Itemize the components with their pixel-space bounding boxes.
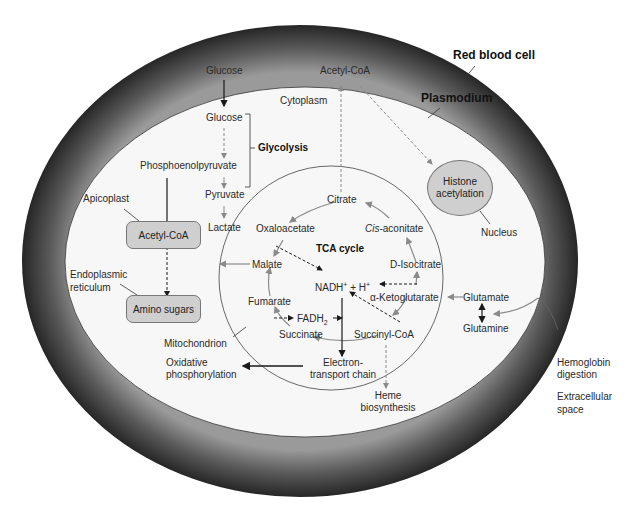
glutamate: Glutamate — [463, 292, 509, 304]
alpha-ketoglutarate: α-Ketoglutarate — [370, 292, 439, 304]
er-label-line2: reticulum — [70, 282, 111, 294]
nadh-h: NADH+ + H+ — [315, 279, 370, 294]
mitochondrion-label: Mitochondrion — [164, 338, 227, 350]
oxaloacetate: Oxaloacetate — [256, 223, 315, 235]
histone-line2: acetylation — [436, 188, 484, 200]
d-isocitrate: D-Isocitrate — [390, 259, 441, 271]
fumarate: Fumarate — [248, 296, 291, 308]
heme-line2: biosynthesis — [356, 402, 420, 414]
nucleus-histone-acetylation: Histone acetylation — [427, 160, 493, 216]
red-blood-cell-label: Red blood cell — [453, 49, 535, 61]
oxphos-line1: Oxidative — [166, 357, 208, 369]
cis-aconitate: Cis-aconitate — [365, 223, 423, 235]
nadh-text: NADH — [315, 282, 343, 293]
etc-line2: transport chain — [305, 369, 381, 381]
succinate: Succinate — [279, 329, 323, 341]
glucose: Glucose — [206, 112, 243, 124]
fadh-text: FADH — [297, 313, 324, 324]
cis-prefix: Cis — [365, 223, 379, 234]
fadh-sub: 2 — [324, 319, 328, 326]
er-label-line1: Endoplasmic — [70, 269, 127, 281]
succinyl-coa: Succinyl-CoA — [354, 329, 414, 341]
h-text: + H — [347, 282, 366, 293]
fadh2: FADH2 — [297, 313, 328, 329]
tca-cycle-label: TCA cycle — [316, 243, 364, 255]
plasmodium-body — [65, 87, 545, 437]
histone-line1: Histone — [443, 176, 477, 188]
er-amino-sugars-box: Amino sugars — [126, 295, 201, 323]
malate: Malate — [252, 259, 282, 271]
extracellular-label-line2: space — [557, 404, 584, 416]
h-sup: + — [366, 281, 370, 288]
extracellular-label-line1: Extracellular — [557, 391, 612, 403]
apicoplast-label: Apicoplast — [83, 193, 129, 205]
heme-line1: Heme — [356, 390, 420, 402]
apicoplast-acetyl-coa-box: Acetyl-CoA — [126, 221, 201, 249]
glucose-external: Glucose — [206, 65, 243, 77]
glycolysis-label: Glycolysis — [258, 142, 308, 154]
pyruvate: Pyruvate — [205, 189, 244, 201]
acetyl-coa-cytoplasm: Acetyl-CoA — [320, 65, 370, 77]
hemoglobin-line2: digestion — [557, 369, 597, 381]
nucleus-label: Nucleus — [481, 227, 517, 239]
cytoplasm-label: Cytoplasm — [280, 95, 327, 107]
oxphos-line2: phosphorylation — [166, 369, 237, 381]
etc-line1: Electron- — [305, 357, 381, 369]
plasmodium-label: Plasmodium — [421, 92, 492, 104]
citrate: Citrate — [327, 194, 356, 206]
hemoglobin-line1: Hemoglobin — [557, 357, 610, 369]
phosphoenolpyruvate: Phosphoenolpyruvate — [140, 160, 237, 172]
glutamine: Glutamine — [463, 323, 509, 335]
cis-suffix: -aconitate — [379, 223, 423, 234]
lactate: Lactate — [208, 222, 241, 234]
